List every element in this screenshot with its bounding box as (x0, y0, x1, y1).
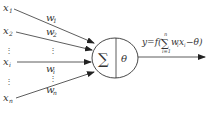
weight-ellipsis-1: ⋮ (49, 46, 57, 55)
svg-text:2: 2 (8, 30, 13, 37)
svg-text:): ) (198, 37, 203, 47)
threshold-theta: θ (121, 53, 127, 64)
input-xi: x i (3, 56, 11, 68)
svg-text:i=1: i=1 (162, 48, 171, 54)
svg-text:i: i (9, 61, 11, 68)
weight-wn: w n (46, 84, 57, 96)
input-xn: x n (3, 92, 13, 104)
summation-icon: ∑ (98, 50, 109, 68)
neuron-node: ∑ θ (92, 38, 138, 78)
weight-ellipsis-2: ⋮ (49, 74, 57, 83)
weight-w2: w 2 (46, 26, 57, 38)
svg-text:−θ: −θ (186, 37, 200, 47)
input-x2: x 2 (3, 25, 13, 37)
output-formula: y=f ( ∑ n i=1 w i x i −θ ) (141, 31, 203, 54)
svg-text:n: n (9, 97, 13, 104)
svg-text:2: 2 (52, 31, 57, 38)
svg-text:n: n (53, 89, 57, 96)
svg-text:y=f: y=f (141, 37, 160, 47)
svg-text:n: n (164, 31, 167, 37)
svg-text:1: 1 (53, 17, 57, 24)
svg-text:1: 1 (9, 7, 13, 14)
neuron-diagram: x 1 x 2 ⋮ x i ⋮ x n w 1 w 2 ⋮ w i ⋮ w n … (0, 0, 208, 113)
input-ellipsis-2: ⋮ (5, 77, 13, 86)
weight-w1: w 1 (46, 12, 57, 24)
input-x1: x 1 (3, 2, 13, 14)
input-ellipsis-1: ⋮ (5, 46, 13, 55)
